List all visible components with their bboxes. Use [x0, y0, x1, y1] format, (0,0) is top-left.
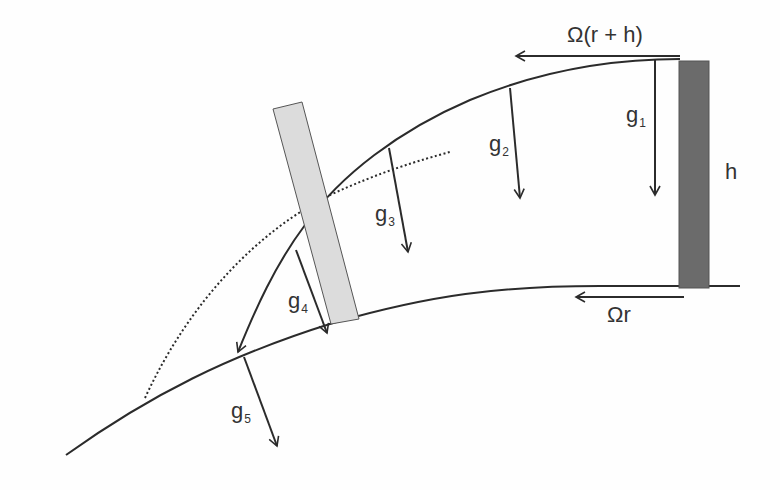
label-ground-velocity: Ωr — [607, 304, 631, 326]
label-g1: g1 — [626, 104, 646, 126]
rotated-tower — [273, 102, 359, 324]
ground-surface-curve — [66, 286, 740, 455]
tower — [679, 61, 709, 288]
gravity-vector-g2 — [510, 88, 520, 198]
label-height: h — [725, 161, 737, 183]
label-g5: g5 — [231, 400, 251, 422]
diagram-drawing — [0, 0, 780, 490]
label-g4: g4 — [288, 290, 308, 312]
label-g2: g2 — [489, 133, 509, 155]
diagram-canvas: Ω(r + h) Ωr h g1 g2 g3 g4 g5 — [0, 0, 780, 490]
label-g3: g3 — [375, 203, 395, 225]
gravity-vector-g3 — [389, 148, 408, 252]
label-top-velocity: Ω(r + h) — [567, 24, 643, 46]
